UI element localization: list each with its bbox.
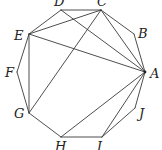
diagonal-ce (29, 10, 101, 34)
vertex-points (144, 71, 147, 74)
diagonal-ah (61, 72, 145, 137)
vertex-label-a: A (149, 66, 159, 81)
vertex-label-g: G (14, 106, 24, 121)
diagonal-ae (29, 34, 145, 72)
diagonal-ac (101, 10, 145, 72)
side-bc (101, 10, 134, 34)
vertex-label-e: E (13, 28, 24, 43)
vertex-label-f: F (4, 65, 15, 80)
side-ja (135, 72, 145, 108)
vertex-label-b: B (137, 26, 148, 41)
diagonal-ai (102, 72, 145, 137)
decagon-diagram: ABCDEFGHIJ (0, 0, 162, 150)
vertex-labels: ABCDEFGHIJ (4, 0, 159, 150)
vertex-label-d: D (53, 0, 65, 9)
vertex-point-a (144, 71, 147, 74)
decagon-sides (17, 10, 145, 137)
vertex-label-h: H (54, 139, 67, 150)
vertex-label-j: J (136, 106, 145, 121)
vertex-label-i: I (96, 139, 103, 150)
side-de (29, 10, 61, 34)
side-gh (29, 113, 61, 137)
vertex-label-c: C (97, 0, 107, 9)
